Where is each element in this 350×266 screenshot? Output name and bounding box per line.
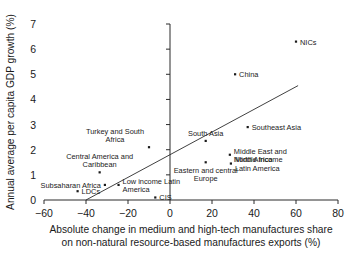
data-point-2 [247,126,249,128]
point-label-3: South Asia [188,129,224,138]
data-point-6 [205,161,207,163]
x-tick-label-0: −60 [35,207,53,219]
data-point-4 [229,154,231,156]
point-label-0: NICs [300,38,317,47]
point-label-12: CIS [159,193,171,202]
point-label-6: Eastern and centralEurope [174,166,238,183]
point-label-10: LDCs [82,187,101,196]
x-tick-label-5: 40 [248,207,260,219]
x-tick-label-7: 80 [332,207,344,219]
y-tick-label-4: 4 [30,93,36,105]
point-label-1: China [239,70,259,79]
data-point-0 [295,41,297,43]
y-tick-label-2: 2 [30,144,36,156]
y-axis-title: Annual average per capita GDP growth (%) [5,14,16,210]
data-point-11 [117,184,119,186]
data-point-1 [234,73,236,75]
scatter-plot-canvas: −60−40−2002040608001234567NICsChinaSouth… [0,0,350,266]
y-tick-label-5: 5 [30,68,36,80]
data-point-10 [77,190,79,192]
data-point-12 [154,196,156,198]
data-point-8 [99,171,101,173]
scatter-chart-figure: −60−40−2002040608001234567NICsChinaSouth… [0,0,350,266]
x-tick-label-4: 20 [206,207,218,219]
data-point-9 [104,184,106,186]
point-label-8: Central America andCaribbean [66,152,133,169]
point-label-7: Turkey and SouthAfrica [86,127,144,144]
point-label-5: Middle incomeLatin America [235,155,283,172]
x-tick-label-2: −20 [119,207,137,219]
y-tick-label-3: 3 [30,119,36,131]
point-label-2: Southeast Asia [252,123,302,132]
y-tick-label-1: 1 [30,169,36,181]
x-tick-label-1: −40 [77,207,95,219]
data-point-7 [148,146,150,148]
x-axis-title-line2: on non-natural resource-based manufactur… [62,237,321,248]
y-tick-label-0: 0 [30,194,36,206]
x-tick-label-6: 60 [290,207,302,219]
data-point-5 [230,162,232,164]
data-point-3 [205,140,207,142]
y-tick-label-6: 6 [30,43,36,55]
x-axis-title-line1: Absolute change in medium and high-tech … [49,224,332,235]
y-tick-label-7: 7 [30,18,36,30]
x-tick-label-3: 0 [167,207,173,219]
point-label-11: Low income LatinAmerica [123,177,181,194]
